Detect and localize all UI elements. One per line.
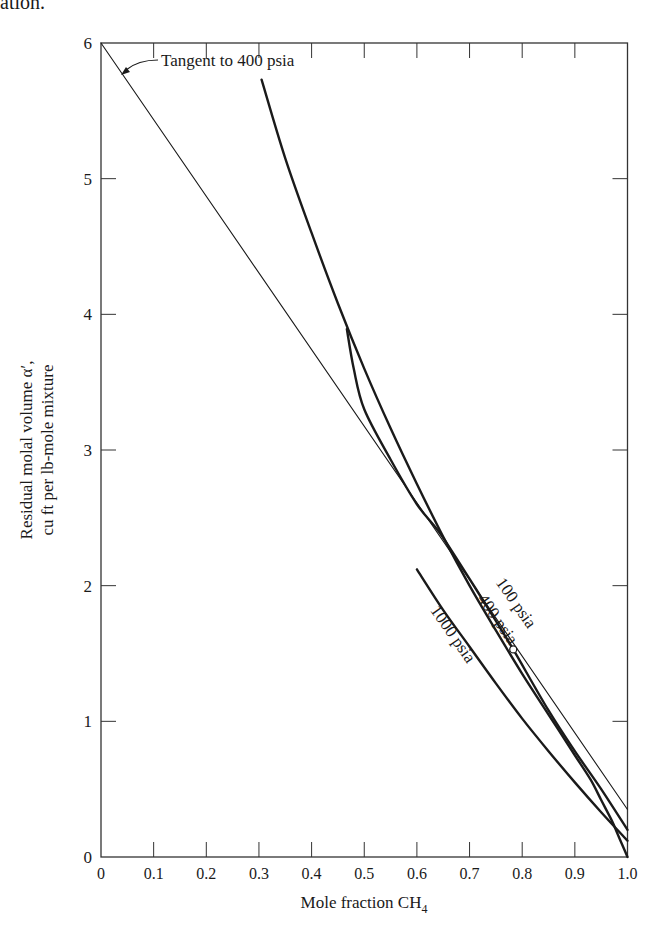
y-axis-label: Residual molal volume α′, cu ft per lb-m… — [17, 361, 57, 540]
series-100-psia — [262, 80, 628, 857]
x-tick-label: 0.5 — [354, 865, 374, 882]
x-axis-label: Mole fraction CH4 — [301, 893, 428, 916]
y-tick-label: 4 — [84, 305, 93, 324]
series-lines — [101, 43, 628, 857]
tangent-label: Tangent to 400 psia — [161, 51, 295, 70]
curve-label: 1000 psia — [426, 602, 479, 667]
y-tick-label: 6 — [84, 34, 93, 53]
x-tick-label: 0.7 — [460, 865, 480, 882]
y-tick-label: 1 — [84, 712, 93, 731]
y-tick-label: 2 — [84, 577, 93, 596]
tangent-annotation: Tangent to 400 psia — [121, 51, 295, 75]
y-tick-label: 3 — [84, 441, 93, 460]
series-tangent-to-400-psia — [101, 43, 628, 810]
series-400-psia — [347, 329, 628, 830]
x-tick-label: 0.2 — [196, 865, 216, 882]
y-tick-label: 5 — [84, 170, 93, 189]
x-tick-label: 0.1 — [144, 865, 164, 882]
y-axis-ticks: 0123456 — [84, 34, 628, 867]
x-tick-label: 0.8 — [512, 865, 532, 882]
chart: 00.10.20.30.40.50.60.70.80.91.0 0123456 … — [0, 0, 669, 936]
x-tick-label: 0.4 — [302, 865, 322, 882]
x-tick-label: 0 — [97, 865, 105, 882]
plot-frame — [101, 43, 628, 857]
y-axis-label-line1: Residual molal volume α′, — [17, 361, 36, 540]
curve-labels: 100 psia400 psia1000 psia — [426, 574, 540, 667]
open-circle-marker — [510, 646, 517, 653]
data-markers — [510, 646, 517, 653]
y-axis-label-line2: cu ft per lb-mole mixture — [38, 365, 57, 536]
x-tick-label: 0.3 — [249, 865, 269, 882]
x-tick-label: 0.6 — [407, 865, 427, 882]
arrow-icon — [126, 60, 158, 70]
plot-border — [101, 43, 628, 857]
x-tick-label: 0.9 — [565, 865, 585, 882]
x-tick-label: 1.0 — [618, 865, 638, 882]
y-tick-label: 0 — [84, 848, 93, 867]
x-axis-ticks: 00.10.20.30.40.50.60.70.80.91.0 — [97, 43, 638, 882]
